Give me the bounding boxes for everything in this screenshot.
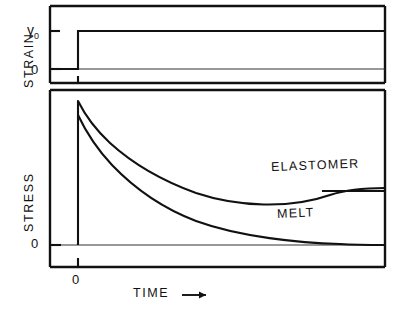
strain-tick-zero: 0: [31, 62, 38, 77]
stress-tick-zero: 0: [31, 236, 38, 251]
stress-panel-frame: [50, 90, 385, 267]
time-axis-label: TIME: [133, 286, 169, 300]
strain-tick-gamma-zero: γ0: [27, 22, 39, 41]
strain-panel-frame: [50, 6, 385, 83]
stress-axis-label: STRESS: [22, 172, 36, 232]
time-origin-label: 0: [72, 272, 79, 287]
elastomer-curve: [78, 101, 385, 208]
stress-relaxation-figure: STRAIN STRESS γ0 0 0 0 TIME ELASTOMER ME…: [0, 0, 399, 316]
time-arrow-icon: [182, 292, 206, 299]
gamma-glyph: γ: [27, 22, 34, 38]
step-strain-curve: [50, 31, 385, 69]
melt-curve: [78, 115, 385, 245]
strain-axis-label: STRAIN: [22, 33, 36, 88]
gamma-subscript: 0: [34, 31, 39, 41]
melt-curve-label: MELT: [277, 205, 315, 221]
